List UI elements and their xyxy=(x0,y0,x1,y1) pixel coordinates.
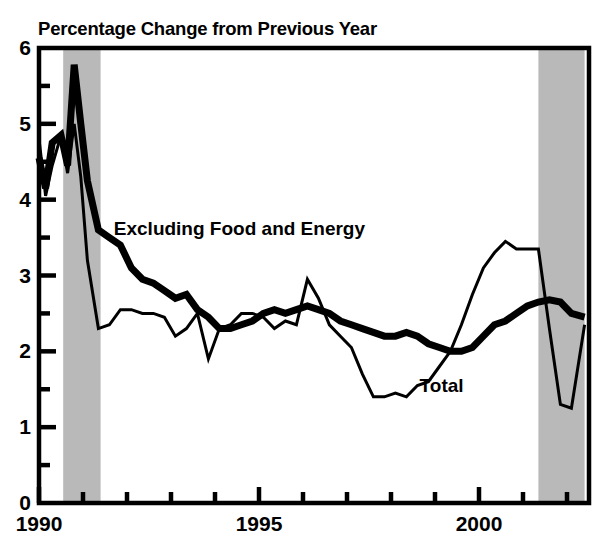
series-line-total xyxy=(39,124,585,408)
series-label-total: Total xyxy=(420,375,464,397)
y-axis-tick-label-5: 5 xyxy=(1,113,31,134)
y-axis-tick-label-2: 2 xyxy=(1,340,31,361)
y-axis-tick-label-4: 4 xyxy=(1,189,31,210)
y-axis-tick-label-6: 6 xyxy=(1,37,31,58)
y-axis-tick-label-0: 0 xyxy=(1,492,31,513)
x-axis-tick-label-1995: 1995 xyxy=(236,513,283,534)
recession-band xyxy=(538,48,584,503)
y-axis-tick-label-1: 1 xyxy=(1,416,31,437)
plot-canvas xyxy=(0,0,606,547)
chart-figure: Percentage Change from Previous Year 6 5… xyxy=(0,0,606,547)
series-label-excluding-food-and-energy: Excluding Food and Energy xyxy=(114,218,365,240)
axes-frame xyxy=(39,48,589,503)
x-axis-tick-label-2000: 2000 xyxy=(456,513,503,534)
chart-title: Percentage Change from Previous Year xyxy=(38,18,377,40)
y-axis-tick-label-3: 3 xyxy=(1,265,31,286)
plot-border xyxy=(39,48,589,503)
x-axis-tick-label-1990: 1990 xyxy=(16,513,63,534)
